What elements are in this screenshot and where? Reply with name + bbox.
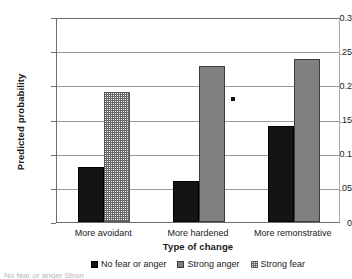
legend-label: Strong fear (261, 259, 306, 270)
legend: No fear or angerStrong angerStrong fear (56, 258, 340, 270)
x-category-label: More avoidant (56, 228, 151, 239)
legend-item: Strong anger (177, 259, 239, 270)
y-tick-mark (51, 223, 56, 224)
cropped-caption-sliver: No fear or anger Stron (4, 271, 224, 279)
legend-swatch-icon (251, 261, 258, 268)
plot-area (56, 18, 340, 223)
gridline (57, 52, 339, 53)
legend-label: Strong anger (187, 259, 239, 270)
legend-item: No fear or anger (91, 259, 167, 270)
chart-container: Predicted probability 0.30.250.20.150.10… (0, 0, 352, 279)
x-axis-title: Type of change (56, 241, 340, 252)
x-category-label: More remonstrative (245, 228, 340, 239)
y-axis-title: Predicted probability (14, 52, 28, 192)
bar (199, 66, 225, 222)
bar (173, 181, 199, 222)
bar (104, 92, 130, 222)
legend-item: Strong fear (251, 259, 306, 270)
legend-swatch-icon (177, 261, 184, 268)
legend-swatch-icon (91, 261, 98, 268)
bar (294, 59, 320, 222)
lone-point-marker-icon (231, 97, 235, 101)
bar (78, 167, 104, 222)
bar (268, 126, 294, 222)
x-category-label: More hardened (151, 228, 246, 239)
legend-label: No fear or anger (101, 259, 167, 270)
